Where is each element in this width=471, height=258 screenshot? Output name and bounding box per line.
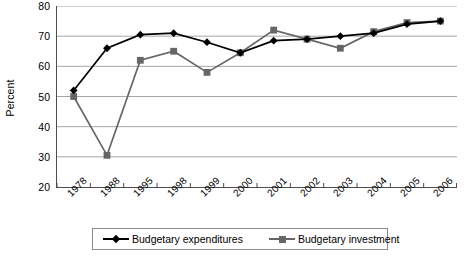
plot-svg xyxy=(57,6,457,187)
legend-label-budgetary-investment: Budgetary investment xyxy=(298,233,400,245)
data-point xyxy=(337,45,344,52)
y-tick-label: 60 xyxy=(26,61,50,71)
x-axis-ticks: 1978198819951998199920002001200220032004… xyxy=(56,188,456,222)
legend-entry-budgetary-investment: Budgetary investment xyxy=(269,233,400,245)
data-point xyxy=(136,31,144,39)
y-tick-label: 50 xyxy=(26,92,50,102)
data-point xyxy=(270,27,277,34)
data-point xyxy=(203,38,211,46)
chart-legend: Budgetary expenditures Budgetary investm… xyxy=(92,228,388,250)
data-point xyxy=(336,32,344,40)
legend-key-square-icon xyxy=(269,234,295,244)
y-axis-title-text: Percent xyxy=(4,79,16,116)
data-point xyxy=(170,48,177,55)
y-axis-title: Percent xyxy=(2,0,18,195)
legend-label-budgetary-expenditures: Budgetary expenditures xyxy=(132,233,243,245)
y-tick-label: 20 xyxy=(26,182,50,192)
legend-key-diamond-icon xyxy=(103,234,129,244)
data-point xyxy=(137,57,144,64)
y-tick-label: 30 xyxy=(26,152,50,162)
series-line-budgetary-investment xyxy=(74,21,441,155)
legend-entry-budgetary-expenditures: Budgetary expenditures xyxy=(103,233,243,245)
data-point xyxy=(204,69,211,76)
chart-figure: Percent 20304050607080 19781988199519981… xyxy=(0,0,471,258)
y-tick-label: 70 xyxy=(26,31,50,41)
series-line-budgetary-expenditures xyxy=(74,21,441,90)
y-axis-ticks: 20304050607080 xyxy=(20,6,50,187)
y-tick-label: 80 xyxy=(26,1,50,11)
plot-area xyxy=(56,6,457,188)
data-point xyxy=(104,152,111,159)
y-tick-label: 40 xyxy=(26,122,50,132)
data-point xyxy=(270,37,278,45)
